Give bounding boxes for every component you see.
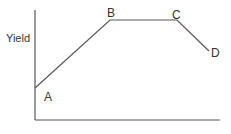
point-label-a: A — [44, 90, 52, 104]
point-label-d: D — [211, 46, 220, 60]
y-axis-label: Yield — [6, 32, 30, 44]
point-label-b: B — [107, 6, 115, 20]
yield-diagram: Yield A B C D — [0, 0, 231, 134]
yield-curve — [35, 20, 209, 88]
point-label-c: C — [172, 8, 181, 22]
